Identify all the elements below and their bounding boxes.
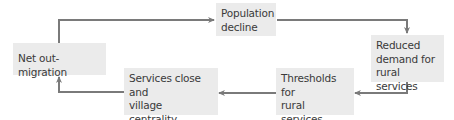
node-services-close: Services close and village centrality de… xyxy=(124,68,218,115)
node-line: demand for xyxy=(376,53,439,67)
node-line: decline xyxy=(221,21,271,35)
node-line: Services close and xyxy=(129,72,213,99)
node-line: Thresholds for xyxy=(281,72,349,99)
node-line: Population xyxy=(221,7,271,21)
node-line: rural services xyxy=(376,66,439,93)
node-net-out-migration: Net out-migration xyxy=(13,43,106,75)
arrow-services-to-netout xyxy=(59,77,124,92)
node-population-decline: Population decline xyxy=(216,3,276,36)
node-thresholds-undermined: Thresholds for rural services undermined xyxy=(276,68,354,115)
node-line: Reduced xyxy=(376,39,439,53)
arrow-population-to-reduced xyxy=(277,20,407,33)
node-line: rural services xyxy=(281,99,349,120)
node-reduced-demand: Reduced demand for rural services xyxy=(371,35,444,82)
node-line: village centrality xyxy=(129,99,213,120)
arrow-netout-to-population xyxy=(59,20,214,43)
node-line: Net out-migration xyxy=(18,52,101,79)
